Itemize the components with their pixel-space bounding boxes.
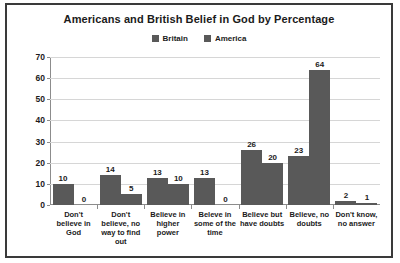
bar-value-label: 64 [309,60,330,69]
bar-slot: 26 [241,57,262,205]
bar[interactable] [288,156,309,205]
bar-slot: 23 [288,57,309,205]
bar-group: 145 [97,57,144,205]
bar-value-label: 26 [241,140,262,149]
x-axis-label: Believe but have doubts [239,210,286,246]
bar-slot: 20 [262,57,283,205]
y-tick-label: 30 [36,137,45,147]
bar-slot: 10 [53,57,74,205]
bar-slot: 0 [74,57,95,205]
y-tick-label: 70 [36,52,45,62]
bar[interactable] [335,201,356,205]
legend-item-america: America [204,34,247,43]
x-tick-mark [97,205,98,209]
bar-value-label: 10 [53,174,74,183]
y-tick-label: 60 [36,73,45,83]
legend-label-america: America [215,34,247,43]
x-tick-mark [286,205,287,209]
bar-value-label: 0 [74,195,95,204]
bar[interactable] [356,203,377,205]
bar-group: 2620 [239,57,286,205]
x-axis-labels: Don't believe in GodDon't believe, no wa… [50,210,380,246]
bar-slot: 64 [309,57,330,205]
bar-value-label: 10 [168,174,189,183]
bar-value-label: 2 [335,191,356,200]
y-tick-label: 10 [36,179,45,189]
bar-slot: 10 [168,57,189,205]
legend-label-britain: Britain [163,34,188,43]
x-tick-mark [333,205,334,209]
bar-value-label: 0 [215,195,236,204]
chart-frame: Americans and British Belief in God by P… [5,3,393,258]
bar-groups: 10014513101302620236421 [50,57,380,205]
bar[interactable] [121,194,142,205]
bar[interactable] [100,175,121,205]
bar-value-label: 20 [262,153,283,162]
y-tick-label: 40 [36,115,45,125]
x-axis-label: Don't know, no answer [333,210,380,246]
plot-area: 010203040506070 10014513101302620236421 [50,57,380,205]
bar-group: 2364 [286,57,333,205]
bar-value-label: 13 [147,168,168,177]
bar-value-label: 13 [194,168,215,177]
y-tick-label: 50 [36,94,45,104]
bar-slot: 13 [147,57,168,205]
y-tick-label: 20 [36,158,45,168]
legend-swatch-icon [204,35,211,42]
x-tick-mark [191,205,192,209]
bar-slot: 0 [215,57,236,205]
y-tick-label: 0 [40,200,45,210]
bar[interactable] [309,70,330,205]
bar-group: 21 [333,57,380,205]
bar-value-label: 14 [100,165,121,174]
x-axis-label: Believe in higher power [144,210,191,246]
bar-slot: 2 [335,57,356,205]
bar-value-label: 1 [356,193,377,202]
x-axis-label: Don't believe in God [50,210,97,246]
bar-value-label: 23 [288,146,309,155]
bar-slot: 1 [356,57,377,205]
x-tick-mark [144,205,145,209]
legend-item-britain: Britain [152,34,188,43]
bar[interactable] [241,150,262,205]
bar[interactable] [262,163,283,205]
bar-slot: 13 [194,57,215,205]
x-tick-mark [239,205,240,209]
bar[interactable] [168,184,189,205]
chart-title: Americans and British Belief in God by P… [7,13,391,25]
bar-group: 100 [50,57,97,205]
bar-slot: 5 [121,57,142,205]
bar[interactable] [194,178,215,205]
bar-group: 1310 [144,57,191,205]
legend-swatch-icon [152,35,159,42]
chart-legend: Britain America [7,34,391,43]
bar[interactable] [147,178,168,205]
x-axis-label: Beleve in some of the time [191,210,238,246]
x-axis-label: Believe, no doubts [286,210,333,246]
bar-value-label: 5 [121,184,142,193]
bar-group: 130 [191,57,238,205]
bar-slot: 14 [100,57,121,205]
x-axis-label: Don't believe, no way to find out [97,210,144,246]
bar[interactable] [53,184,74,205]
y-tick-mark [47,205,50,206]
